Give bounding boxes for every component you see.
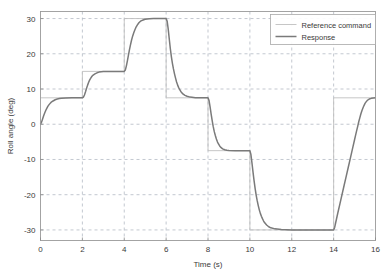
xtick-label-6: 6	[164, 245, 169, 254]
legend-label-reference-command: Reference command	[302, 21, 372, 30]
ytick-label-30: 30	[27, 15, 36, 24]
legend-label-response: Response	[302, 33, 336, 42]
xtick-label-0: 0	[38, 245, 43, 254]
ytick-label-10: 10	[27, 85, 36, 94]
roll-angle-time-plot: 0246810121416 3020100-10-20-30 Time (s) …	[0, 0, 388, 278]
ytick-label--20: -20	[24, 191, 36, 200]
ytick-label-20: 20	[27, 50, 36, 59]
xtick-label-16: 16	[371, 245, 380, 254]
xtick-label-8: 8	[206, 245, 211, 254]
xtick-label-10: 10	[245, 245, 254, 254]
ytick-label--10: -10	[24, 155, 36, 164]
xtick-label-2: 2	[80, 245, 85, 254]
xtick-label-14: 14	[329, 245, 338, 254]
xtick-label-4: 4	[122, 245, 127, 254]
chart-legend: Reference command Response	[271, 15, 376, 45]
chart-figure: 0246810121416 3020100-10-20-30 Time (s) …	[0, 0, 388, 278]
x-axis-title: Time (s)	[193, 260, 222, 269]
y-axis-title: Roll angle (deg)	[6, 97, 15, 154]
xtick-label-12: 12	[287, 245, 296, 254]
ytick-label--30: -30	[24, 226, 36, 235]
ytick-label-0: 0	[31, 120, 36, 129]
